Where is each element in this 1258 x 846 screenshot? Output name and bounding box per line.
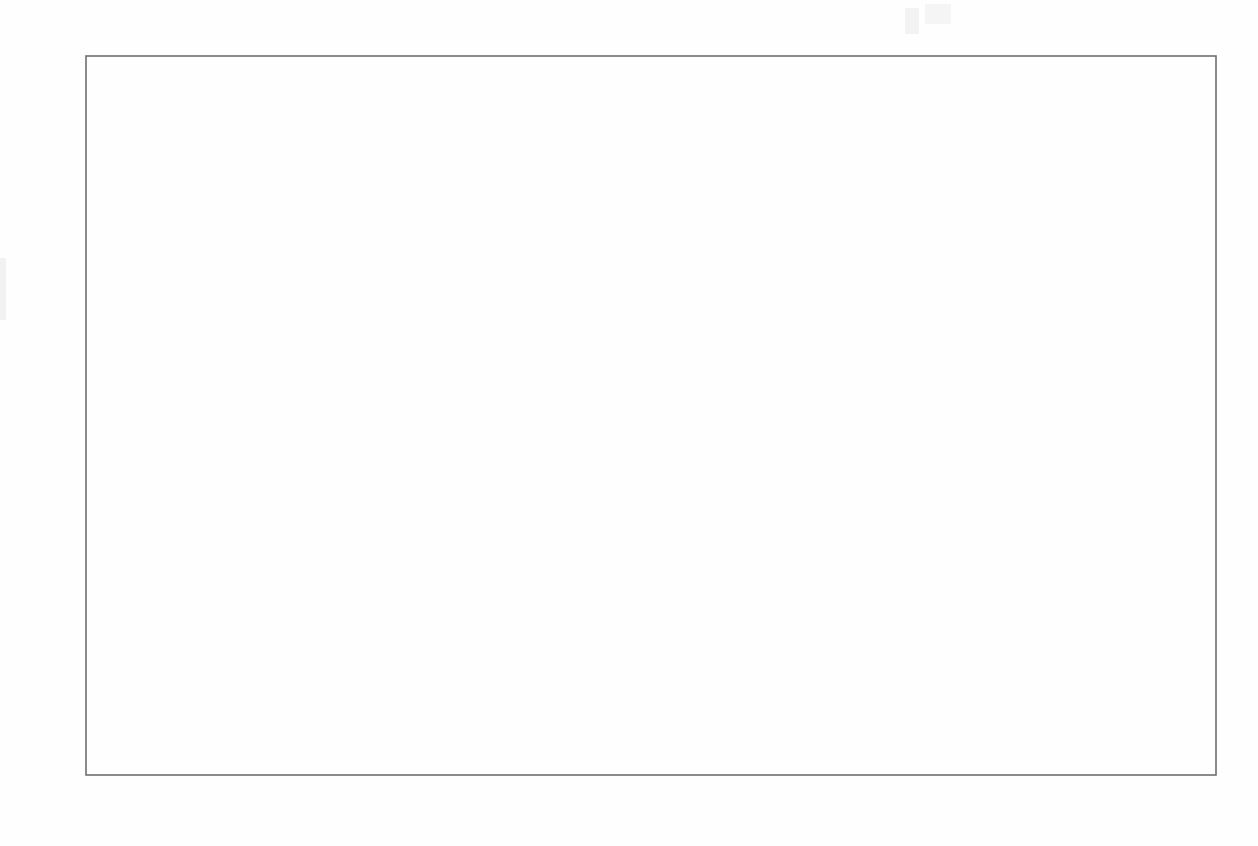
scan-artifacts — [0, 4, 951, 320]
plot-frame — [86, 56, 1216, 775]
ir-spectrum-figure — [0, 0, 1258, 846]
spectrum-plot — [0, 0, 1258, 846]
